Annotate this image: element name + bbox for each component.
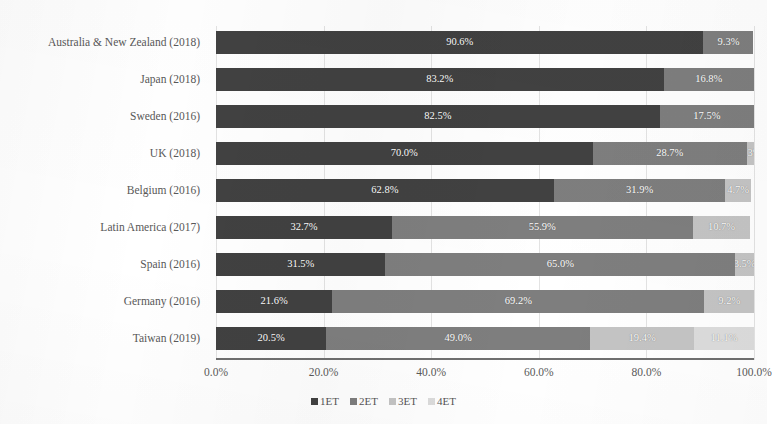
legend-swatch-icon xyxy=(350,398,357,405)
category-label: Sweden (2016) xyxy=(0,105,208,128)
bar-row: 82.5%17.5% xyxy=(216,105,754,128)
bar-segment-value-label: 17.5% xyxy=(693,111,720,122)
bar-row: 90.6%9.3% xyxy=(216,31,754,54)
x-tick-label: 60.0% xyxy=(524,366,554,378)
bar-segment-value-label: 10.7% xyxy=(708,222,735,233)
category-label: Australia & New Zealand (2018) xyxy=(0,31,208,54)
gridline xyxy=(754,26,755,360)
bar-segment-value-label: 3.5% xyxy=(735,259,754,270)
bar-segment-value-label: 1.3% xyxy=(747,148,754,159)
x-axis-tick-labels: 0.0%20.0%40.0%60.0%80.0%100.0% xyxy=(0,366,767,386)
bar-row: 83.2%16.8% xyxy=(216,68,754,91)
bar-row: 62.8%31.9%4.7% xyxy=(216,179,754,202)
legend-label: 2ET xyxy=(359,395,378,407)
bar-segment-2et: 69.2% xyxy=(332,290,704,313)
bar-segment-1et: 31.5% xyxy=(216,253,385,276)
legend-label: 3ET xyxy=(398,395,417,407)
bar-segment-3et: 19.4% xyxy=(590,327,694,350)
legend-label: 1ET xyxy=(320,395,339,407)
bar-segment-value-label: 90.6% xyxy=(446,37,473,48)
x-tick-label: 100.0% xyxy=(736,366,771,378)
bar-segment-1et: 20.5% xyxy=(216,327,326,350)
bar-segment-1et: 21.6% xyxy=(216,290,332,313)
bar-segment-value-label: 21.6% xyxy=(261,296,288,307)
bar-segment-value-label: 4.7% xyxy=(727,185,749,196)
legend-item-3et[interactable]: 3ET xyxy=(389,395,417,407)
bar-segment-2et: 31.9% xyxy=(554,179,726,202)
category-axis-labels: Australia & New Zealand (2018)Japan (201… xyxy=(0,26,208,360)
category-label: Japan (2018) xyxy=(0,68,208,91)
bar-segment-value-label: 69.2% xyxy=(505,296,532,307)
bar-row: 20.5%49.0%19.4%11.1% xyxy=(216,327,754,350)
bar-segment-value-label: 55.9% xyxy=(529,222,556,233)
bar-segment-4et: 11.1% xyxy=(694,327,754,350)
bar-segment-value-label: 70.0% xyxy=(391,148,418,159)
bar-segment-value-label: 11.1% xyxy=(711,333,738,344)
bar-segment-2et: 17.5% xyxy=(660,105,754,128)
bar-segment-2et: 55.9% xyxy=(392,216,693,239)
bar-segment-value-label: 20.5% xyxy=(258,333,285,344)
bar-segment-3et: 9.2% xyxy=(704,290,753,313)
bar-segment-value-label: 82.5% xyxy=(424,111,451,122)
category-label: UK (2018) xyxy=(0,142,208,165)
category-label: Taiwan (2019) xyxy=(0,327,208,350)
legend-item-2et[interactable]: 2ET xyxy=(350,395,378,407)
category-label: Belgium (2016) xyxy=(0,179,208,202)
bar-segment-value-label: 32.7% xyxy=(290,222,317,233)
bar-segment-3et: 10.7% xyxy=(693,216,751,239)
bar-segment-3et: 1.3% xyxy=(747,142,754,165)
bar-segment-value-label: 49.0% xyxy=(445,333,472,344)
bar-segment-3et: 3.5% xyxy=(735,253,754,276)
bar-segment-2et: 65.0% xyxy=(385,253,735,276)
bar-segment-value-label: 83.2% xyxy=(426,74,453,85)
x-tick-label: 0.0% xyxy=(204,366,228,378)
bar-rows: 90.6%9.3%83.2%16.8%82.5%17.5%70.0%28.7%1… xyxy=(216,26,754,360)
bar-segment-1et: 62.8% xyxy=(216,179,554,202)
legend-item-4et[interactable]: 4ET xyxy=(428,395,456,407)
legend-swatch-icon xyxy=(389,398,396,405)
bar-segment-1et: 82.5% xyxy=(216,105,660,128)
bar-segment-value-label: 65.0% xyxy=(547,259,574,270)
bar-row: 70.0%28.7%1.3% xyxy=(216,142,754,165)
bar-row: 31.5%65.0%3.5% xyxy=(216,253,754,276)
x-axis-line xyxy=(216,358,754,360)
bar-segment-1et: 32.7% xyxy=(216,216,392,239)
legend-label: 4ET xyxy=(437,395,456,407)
x-tick-label: 80.0% xyxy=(632,366,662,378)
bar-segment-1et: 70.0% xyxy=(216,142,593,165)
bar-segment-value-label: 62.8% xyxy=(371,185,398,196)
bar-segment-value-label: 19.4% xyxy=(629,333,656,344)
category-label: Spain (2016) xyxy=(0,253,208,276)
bar-segment-value-label: 31.5% xyxy=(287,259,314,270)
category-label: Germany (2016) xyxy=(0,290,208,313)
bar-segment-value-label: 31.9% xyxy=(626,185,653,196)
legend-swatch-icon xyxy=(311,398,318,405)
bar-segment-value-label: 16.8% xyxy=(695,74,722,85)
bar-segment-1et: 83.2% xyxy=(216,68,664,91)
bar-segment-3et: 4.7% xyxy=(725,179,750,202)
bar-segment-2et: 49.0% xyxy=(326,327,590,350)
bar-segment-2et: 28.7% xyxy=(593,142,747,165)
bar-segment-1et: 90.6% xyxy=(216,31,703,54)
bar-segment-2et: 16.8% xyxy=(664,68,754,91)
x-tick-label: 20.0% xyxy=(309,366,339,378)
bar-segment-2et: 9.3% xyxy=(703,31,753,54)
bar-segment-value-label: 28.7% xyxy=(656,148,683,159)
legend-swatch-icon xyxy=(428,398,435,405)
legend-item-1et[interactable]: 1ET xyxy=(311,395,339,407)
bar-row: 32.7%55.9%10.7% xyxy=(216,216,754,239)
plot-area: 90.6%9.3%83.2%16.8%82.5%17.5%70.0%28.7%1… xyxy=(216,26,754,360)
bar-segment-value-label: 9.2% xyxy=(718,296,740,307)
category-label: Latin America (2017) xyxy=(0,216,208,239)
bar-row: 21.6%69.2%9.2% xyxy=(216,290,754,313)
bar-segment-value-label: 9.3% xyxy=(718,37,740,48)
chart-legend: 1ET2ET3ET4ET xyxy=(0,395,767,407)
x-tick-label: 40.0% xyxy=(416,366,446,378)
